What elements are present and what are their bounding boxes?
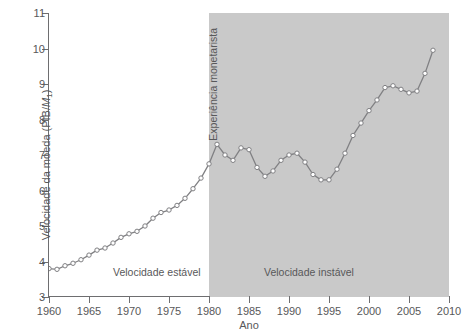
x-axis-tick <box>89 296 90 303</box>
data-point <box>167 208 171 212</box>
data-point <box>279 158 283 162</box>
x-axis-tick <box>409 296 410 303</box>
data-point <box>239 146 243 150</box>
data-point <box>191 187 195 191</box>
y-axis-title: Velocidade da moeda (PIB/M1) <box>40 90 54 241</box>
data-point <box>407 91 411 95</box>
x-axis-tick <box>369 296 370 303</box>
data-point <box>111 241 115 245</box>
y-axis-tick-label: 3 <box>39 291 45 303</box>
x-axis-tick-label: 1995 <box>317 305 341 317</box>
x-axis-tick-label: 1970 <box>117 305 141 317</box>
data-point <box>367 108 371 112</box>
data-point <box>343 151 347 155</box>
data-point <box>247 147 251 151</box>
x-axis-tick <box>449 296 450 303</box>
data-point <box>49 266 51 270</box>
plot-area: 34567891011 1960196519701975198019851990… <box>48 13 448 297</box>
x-axis-tick-label: 1980 <box>197 305 221 317</box>
x-axis-tick-label: 2000 <box>357 305 381 317</box>
data-point <box>391 84 395 88</box>
data-point <box>295 151 299 155</box>
data-point <box>431 48 435 52</box>
x-axis-tick <box>289 296 290 303</box>
data-point <box>207 162 211 166</box>
data-point <box>263 174 267 178</box>
data-point <box>287 153 291 157</box>
data-point <box>359 121 363 125</box>
data-point <box>95 248 99 252</box>
x-axis-tick <box>209 296 210 303</box>
x-axis-tick-label: 1985 <box>237 305 261 317</box>
data-point <box>423 71 427 75</box>
x-axis-tick <box>129 296 130 303</box>
x-axis-tick <box>49 296 50 303</box>
annotation-unstable-period: Velocidade instável <box>264 266 354 278</box>
y-axis-tick-label: 4 <box>39 256 45 268</box>
x-axis-tick-label: 2005 <box>397 305 421 317</box>
data-point <box>135 229 139 233</box>
data-point <box>399 87 403 91</box>
data-series-layer <box>49 13 449 297</box>
data-point <box>327 178 331 182</box>
data-point <box>199 176 203 180</box>
data-point <box>143 224 147 228</box>
x-axis-tick <box>329 296 330 303</box>
data-point <box>151 216 155 220</box>
data-point <box>215 142 219 146</box>
data-point <box>415 89 419 93</box>
data-point <box>103 246 107 250</box>
data-point <box>223 153 227 157</box>
y-axis-tick-label: 9 <box>39 78 45 90</box>
data-point <box>319 178 323 182</box>
data-point <box>55 267 59 271</box>
data-point <box>63 264 67 268</box>
x-axis-tick-label: 1965 <box>77 305 101 317</box>
annotation-stable-period: Velocidade estável <box>113 266 201 278</box>
data-point <box>335 167 339 171</box>
data-point <box>71 261 75 265</box>
data-point <box>183 196 187 200</box>
series-markers <box>49 48 435 271</box>
y-axis-tick-label: 10 <box>33 43 45 55</box>
data-point <box>255 165 259 169</box>
data-point <box>303 160 307 164</box>
data-point <box>119 235 123 239</box>
data-point <box>159 210 163 214</box>
data-point <box>311 172 315 176</box>
data-point <box>79 258 83 262</box>
annotation-monetarist-experiment: Experiência monetarista <box>207 28 219 141</box>
y-axis-tick-label: 11 <box>34 7 45 19</box>
data-point <box>231 158 235 162</box>
x-axis-tick <box>249 296 250 303</box>
data-point <box>383 85 387 89</box>
data-point <box>351 133 355 137</box>
x-axis-tick <box>169 296 170 303</box>
data-point <box>175 203 179 207</box>
series-line <box>49 50 433 269</box>
data-point <box>87 253 91 257</box>
x-axis-tick-label: 2010 <box>437 305 461 317</box>
data-point <box>375 98 379 102</box>
x-axis-tick-label: 1975 <box>157 305 181 317</box>
data-point <box>271 169 275 173</box>
x-axis-title: Ano <box>239 319 259 331</box>
velocity-of-money-chart: 34567891011 1960196519701975198019851990… <box>0 0 473 334</box>
x-axis-tick-label: 1960 <box>37 305 61 317</box>
data-point <box>127 232 131 236</box>
x-axis-tick-label: 1990 <box>277 305 301 317</box>
